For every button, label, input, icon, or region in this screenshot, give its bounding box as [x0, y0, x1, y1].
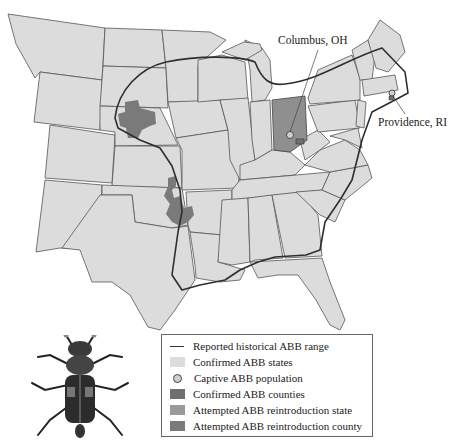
legend-item-confirmed-counties: Confirmed ABB counties — [170, 386, 372, 402]
legend-label: Attempted ABB reintroduction state — [193, 404, 352, 416]
providence-captive-population — [389, 90, 395, 96]
states — [8, 14, 405, 330]
legend: Reported historical ABB range Confirmed … — [161, 334, 373, 437]
ohio-reintroduction-county — [296, 139, 304, 144]
columbus-captive-population — [287, 132, 294, 139]
legend-label: Confirmed ABB counties — [193, 388, 305, 400]
columbus-label: Columbus, OH — [278, 34, 348, 46]
legend-item-captive: Captive ABB population — [170, 370, 372, 386]
light-swatch-icon — [170, 357, 185, 367]
beetle-illustration — [10, 335, 150, 445]
dark-swatch-icon — [170, 421, 185, 431]
legend-label: Confirmed ABB states — [193, 356, 293, 368]
legend-item-reintro-county: Attempted ABB reintroduction county — [170, 418, 372, 434]
dark-swatch-icon — [170, 389, 185, 399]
legend-item-reintro-state: Attempted ABB reintroduction state — [170, 402, 372, 418]
medium-swatch-icon — [170, 405, 185, 415]
legend-label: Reported historical ABB range — [193, 340, 329, 352]
line-symbol-icon — [170, 346, 184, 347]
circle-symbol-icon — [173, 374, 182, 383]
legend-item-confirmed-states: Confirmed ABB states — [170, 354, 372, 370]
legend-label: Attempted ABB reintroduction county — [193, 420, 362, 432]
providence-label: Providence, RI — [378, 116, 447, 128]
legend-item-range: Reported historical ABB range — [170, 338, 372, 354]
legend-label: Captive ABB population — [194, 372, 303, 384]
